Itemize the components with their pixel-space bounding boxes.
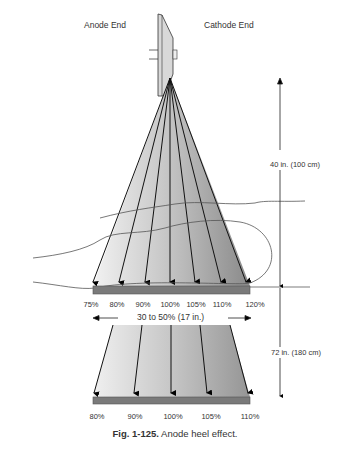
upper-intensity-label: 80% — [109, 300, 124, 309]
xray-tube-icon — [149, 14, 177, 96]
lower-beam — [93, 325, 250, 397]
upper-beam — [93, 78, 250, 286]
figure-title: Anode heel effect. — [161, 428, 237, 439]
anode-end-label: Anode End — [84, 20, 126, 30]
lower-image-receptor — [93, 397, 250, 404]
figure-number: Fig. 1-125. — [112, 428, 158, 439]
distance-lower-label: 72 in. (180 cm) — [271, 347, 321, 358]
upper-intensity-label: 75% — [83, 300, 98, 309]
cathode-end-label: Cathode End — [204, 20, 254, 30]
lower-intensity-label: 105% — [201, 412, 220, 421]
upper-intensity-label: 105% — [186, 300, 205, 309]
upper-intensity-label: 120% — [245, 300, 264, 309]
lower-intensity-label: 90% — [127, 412, 142, 421]
upper-image-receptor — [93, 286, 250, 294]
upper-intensity-label: 110% — [213, 300, 232, 309]
variation-label: 30 to 50% (17 in.) — [137, 312, 204, 322]
distance-upper-label: 40 in. (100 cm) — [270, 159, 320, 170]
lower-intensity-label: 110% — [241, 412, 260, 421]
lower-intensity-label: 100% — [163, 412, 182, 421]
figure-caption: Fig. 1-125. Anode heel effect. — [0, 428, 350, 439]
upper-intensity-label: 90% — [135, 300, 150, 309]
upper-intensity-label: 100% — [160, 300, 179, 309]
anode-heel-diagram — [0, 0, 350, 451]
lower-intensity-label: 80% — [89, 412, 104, 421]
